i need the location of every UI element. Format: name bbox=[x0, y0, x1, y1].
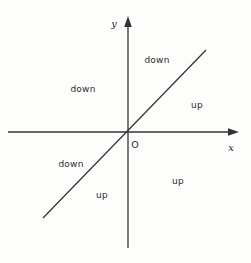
region-label-down-2: down bbox=[70, 84, 95, 94]
x-axis-label: x bbox=[228, 142, 234, 153]
y-axis-label: y bbox=[111, 18, 117, 29]
axes-and-line-graphic bbox=[0, 0, 251, 263]
origin-label: O bbox=[131, 139, 138, 150]
diagonal-line bbox=[43, 50, 206, 218]
region-label-up-2: up bbox=[172, 176, 184, 186]
x-axis-arrowhead bbox=[228, 128, 239, 136]
coordinate-plane-figure: y x O down down down up up up bbox=[0, 0, 251, 263]
region-label-up-1: up bbox=[191, 100, 203, 110]
region-label-up-3: up bbox=[96, 190, 108, 200]
region-label-down-3: down bbox=[58, 159, 83, 169]
region-label-down-1: down bbox=[144, 55, 169, 65]
y-axis-arrowhead bbox=[124, 16, 132, 27]
